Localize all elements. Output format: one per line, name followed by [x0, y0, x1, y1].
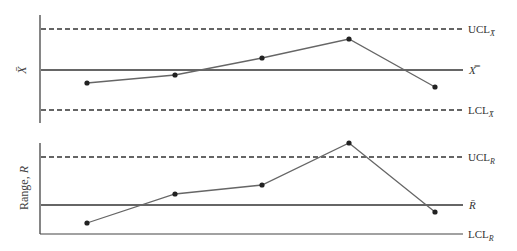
xbar-point-2 — [172, 72, 177, 77]
xbar-y-axis-label: X̄ — [15, 66, 29, 75]
control-charts: X̄ UCLX̄ X̿ LCLX̄ Range, R UCLR R̄ LCLR — [0, 0, 517, 251]
range-y-axis-label: Range, R — [17, 165, 31, 210]
xbar-lcl-label: LCLX̄ — [468, 104, 495, 119]
xbar-point-1 — [84, 80, 89, 85]
range-point-5 — [432, 209, 437, 214]
range-point-2 — [172, 191, 177, 196]
xbar-chart: X̄ UCLX̄ X̿ LCLX̄ — [15, 15, 496, 123]
xbar-point-4 — [346, 36, 351, 41]
xbar-series-line — [87, 39, 435, 87]
range-point-4 — [346, 140, 351, 145]
range-lcl-label: LCLR — [468, 228, 494, 243]
xbar-data-points — [84, 36, 437, 89]
range-point-1 — [84, 220, 89, 225]
xbar-ucl-label: UCLX̄ — [468, 23, 496, 38]
range-data-points — [84, 140, 437, 225]
xbar-center-label: X̿ — [468, 64, 481, 76]
xbar-point-5 — [432, 84, 437, 89]
range-ucl-label: UCLR — [468, 151, 495, 166]
range-center-label: R̄ — [468, 199, 476, 211]
xbar-point-3 — [259, 55, 264, 60]
range-point-3 — [259, 182, 264, 187]
range-chart: Range, R UCLR R̄ LCLR — [17, 140, 495, 243]
